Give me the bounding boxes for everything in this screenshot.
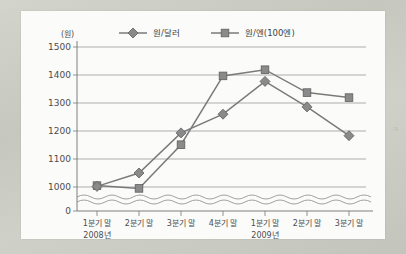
chart-legend: 원/달러 원/엔(100엔) <box>119 28 295 38</box>
chart-plot-area: (원) 1500 1400 1300 1200 1100 1000 0 <box>21 11 385 239</box>
xtick-label-4: 1분기 말 <box>251 219 281 228</box>
xtick-label-2: 3분기 말 <box>167 219 197 228</box>
datapoint-won-yen-5 <box>303 89 311 97</box>
ytick-label-0: 0 <box>65 206 71 216</box>
legend-item-won-yen[interactable]: 원/엔(100엔) <box>211 28 295 38</box>
datapoint-won-yen-3 <box>219 72 227 80</box>
legend-label-won-yen: 원/엔(100엔) <box>245 28 295 38</box>
ytick-label-1500: 1500 <box>48 42 71 52</box>
series-won-yen <box>93 66 353 192</box>
datapoint-won-yen-2 <box>177 141 185 149</box>
y-axis-unit-label: (원) <box>61 30 74 39</box>
legend-item-won-dollar[interactable]: 원/달러 <box>119 28 180 38</box>
x-tickmarks <box>97 211 349 216</box>
xtick-label-3: 4분기 말 <box>209 219 239 228</box>
axis-break-wavy <box>77 195 371 204</box>
legend-square-icon <box>221 29 229 37</box>
ytick-label-1200: 1200 <box>48 126 71 136</box>
datapoint-won-yen-6 <box>345 94 353 102</box>
year-group-label-2009: 2009년 <box>251 230 278 239</box>
series-won-dollar-line <box>97 81 349 186</box>
chart-card: (원) 1500 1400 1300 1200 1100 1000 0 <box>21 11 385 239</box>
legend-diamond-icon <box>128 28 138 38</box>
datapoint-won-yen-1 <box>135 185 143 193</box>
year-group-label-2008: 2008년 <box>83 230 110 239</box>
page-background: (원) 1500 1400 1300 1200 1100 1000 0 <box>0 0 406 254</box>
datapoint-won-dollar-5 <box>302 102 312 112</box>
scan-edge-artifact: ㅋ <box>392 127 399 133</box>
datapoint-won-yen-4 <box>261 66 269 74</box>
xtick-label-1: 2분기 말 <box>125 219 155 228</box>
ytick-label-1300: 1300 <box>48 98 71 108</box>
y-tickmarks <box>73 47 77 211</box>
legend-label-won-dollar: 원/달러 <box>153 28 180 38</box>
datapoint-won-dollar-6 <box>344 131 354 141</box>
xtick-label-0: 1분기 말 <box>83 219 113 228</box>
ytick-label-1400: 1400 <box>48 70 71 80</box>
ytick-label-1000: 1000 <box>48 182 71 192</box>
xtick-label-5: 2분기 말 <box>293 219 323 228</box>
series-won-yen-line <box>97 70 349 189</box>
xtick-label-6: 3분기 말 <box>335 219 365 228</box>
line-chart: (원) 1500 1400 1300 1200 1100 1000 0 <box>21 11 385 239</box>
ytick-label-1100: 1100 <box>48 154 71 164</box>
